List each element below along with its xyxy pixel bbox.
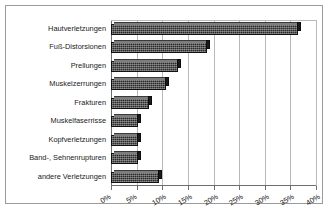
y-axis-label: Muskelzerrungen (49, 75, 106, 93)
gridline-40% (316, 20, 317, 186)
x-axis-tick (188, 186, 189, 190)
y-axis-label: andere Verletzungen (38, 168, 106, 186)
x-axis-tick-label: 0% (99, 192, 113, 205)
bar-row (111, 94, 316, 112)
bar (111, 79, 166, 90)
x-axis-tick-label: 5% (124, 192, 138, 205)
plot-area (111, 20, 316, 186)
bar (111, 135, 138, 146)
x-axis-tick (290, 186, 291, 190)
chart-figure: HautverletzungenFuß-DistorsionenPrellung… (0, 0, 328, 209)
y-axis-label: Hautverletzungen (48, 20, 106, 38)
figure-frame: HautverletzungenFuß-DistorsionenPrellung… (5, 5, 323, 204)
bar-row (111, 131, 316, 149)
bar-series (111, 20, 316, 186)
x-axis-tick-label: 15% (176, 192, 193, 207)
x-axis-tick-label: 20% (202, 192, 219, 207)
bar-row (111, 20, 316, 38)
x-axis-tick (162, 186, 163, 190)
y-axis-label: Kopfverletzungen (48, 131, 106, 149)
x-axis-tick-label: 25% (227, 192, 244, 207)
y-axis-category-labels: HautverletzungenFuß-DistorsionenPrellung… (12, 20, 109, 186)
y-axis-label: Band-, Sehnenrupturen (29, 149, 106, 167)
bar (111, 153, 138, 164)
y-axis-label: Prellungen (71, 57, 106, 75)
bar (111, 42, 207, 53)
bar-row (111, 75, 316, 93)
y-axis-label: Frakturen (74, 94, 106, 112)
x-axis-tick-label: 40% (304, 192, 321, 207)
bar-row (111, 38, 316, 56)
x-axis-tick-labels: 0%5%10%15%20%25%30%35%40% (111, 186, 326, 209)
x-axis-tick (137, 186, 138, 190)
bar (111, 24, 298, 35)
x-axis-tick-label: 10% (150, 192, 167, 207)
bar (111, 61, 178, 72)
bar-row (111, 149, 316, 167)
bar (111, 98, 149, 109)
bar (111, 116, 138, 127)
x-axis-tick-label: 35% (279, 192, 296, 207)
x-axis-tick (265, 186, 266, 190)
bar-row (111, 57, 316, 75)
x-axis-tick (111, 186, 112, 190)
bar-row (111, 112, 316, 130)
x-axis-tick (214, 186, 215, 190)
bar (111, 172, 159, 183)
x-axis-tick (316, 186, 317, 190)
x-axis-tick-label: 30% (253, 192, 270, 207)
y-axis-label: Fuß-Distorsionen (49, 38, 106, 56)
x-axis-tick (239, 186, 240, 190)
y-axis-label: Muskelfaserrisse (51, 112, 106, 130)
bar-row (111, 168, 316, 186)
